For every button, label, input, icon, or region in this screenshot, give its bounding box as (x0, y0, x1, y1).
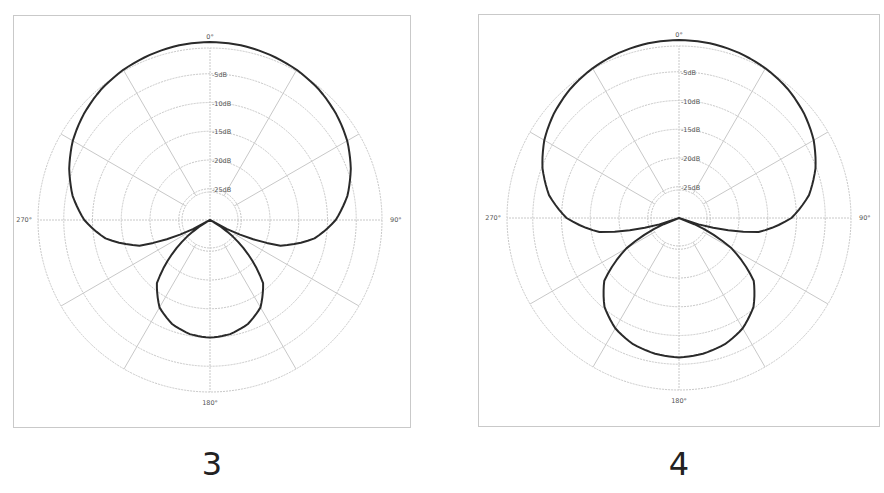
ring-label: -10dB (681, 98, 700, 106)
ring-label: -5dB (681, 69, 696, 77)
ring-label: -15dB (681, 126, 700, 134)
polar-chart-4: -5dB-10dB-15dB-20dB-25dB0°90°180°270° 4 (0, 0, 884, 493)
ring-label: -25dB (681, 184, 700, 192)
chart-caption: 4 (639, 448, 719, 480)
angle-label-180: 180° (671, 397, 687, 405)
angle-label-90: 90° (859, 214, 871, 222)
angle-label-270: 270° (485, 214, 501, 222)
angle-label-0: 0° (675, 31, 682, 39)
polar-plot: -5dB-10dB-15dB-20dB-25dB0°90°180°270° (0, 0, 884, 440)
ring-label: -20dB (681, 155, 700, 163)
